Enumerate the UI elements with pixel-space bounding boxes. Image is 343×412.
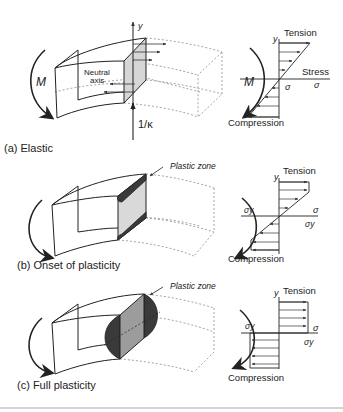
moment-label-left: M — [36, 75, 46, 89]
moment-arrow-right-icon — [234, 310, 254, 368]
sigma-axis-label: σ — [313, 205, 319, 215]
plasticity-bending-figure: M M — [0, 0, 343, 412]
compression-label: Compression — [228, 253, 284, 264]
moment-label-right: M — [244, 75, 254, 89]
stress-diagram-c: y Tension σy σ σy Compression — [228, 285, 319, 383]
cross-section-face — [120, 294, 144, 359]
moment-arrow-left-icon — [29, 318, 52, 373]
stress-y-label: y — [273, 288, 279, 298]
tension-label: Tension — [283, 165, 316, 176]
stress-diagram-b: y Tension σy σ σy Compression — [228, 165, 319, 264]
plastic-zone-label: Plastic zone — [170, 161, 216, 171]
neutral-axis-label-2: axis — [90, 76, 104, 85]
caption-c: (c) Full plasticity — [17, 379, 96, 391]
caption-a: (a) Elastic — [4, 142, 53, 154]
sigma-axis-label: σ — [313, 323, 319, 333]
plastic-zone-label: Plastic zone — [170, 281, 216, 291]
plastic-zone-lens-left — [105, 315, 120, 359]
panel-b-onset-plasticity: Plastic zone (b) Onset of plasticity y T… — [17, 161, 319, 271]
cross-section-face — [124, 38, 146, 103]
compression-label: Compression — [228, 372, 284, 383]
compression-label: Compression — [228, 117, 284, 128]
stress-y-label: y — [272, 34, 278, 44]
bottom-divider — [0, 407, 343, 409]
sigma-y-right-label: σy — [305, 219, 315, 229]
plastic-zone-pointer — [150, 167, 163, 176]
sigma-label: σ — [285, 82, 291, 92]
sigma-axis-label: σ — [314, 80, 320, 90]
stress-axis-label: Stress — [302, 66, 329, 77]
tension-label: Tension — [284, 27, 317, 38]
sigma-y-left-label: σy — [245, 321, 255, 331]
panel-a-elastic: M M — [4, 21, 330, 154]
panel-c-full-plasticity: Plastic zone (c) Full plasticity y Tensi… — [17, 281, 319, 391]
sigma-y-left-label: σy — [244, 205, 254, 215]
plastic-zone-pointer — [150, 287, 163, 295]
curvature-label: 1/κ — [138, 118, 153, 130]
sigma-y-right-label: σy — [304, 337, 314, 347]
stress-y-label: y — [273, 172, 279, 182]
caption-b: (b) Onset of plasticity — [17, 259, 121, 271]
moment-arrow-left-icon — [29, 200, 52, 258]
y-axis-label: y — [137, 21, 143, 31]
tension-label: Tension — [283, 285, 316, 296]
plastic-zone-lens-right — [144, 294, 158, 338]
